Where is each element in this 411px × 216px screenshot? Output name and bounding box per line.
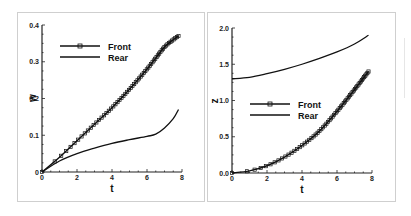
x-tick: 0: [40, 174, 44, 181]
right-legend: Front Rear: [250, 100, 321, 121]
x-tick: 4: [110, 174, 114, 181]
left-legend: Front Rear: [60, 42, 131, 63]
y-tick: 0: [35, 169, 39, 176]
y-tick: 1.5: [219, 61, 229, 68]
charts-canvas: 0 0.1 0.2 0.3 0.4 0 2 4 6 8 t w Front Re…: [0, 0, 411, 216]
legend-rear-label: Rear: [298, 111, 319, 121]
left-y-axis-label: w: [27, 94, 38, 103]
right-x-axis-label: t: [300, 184, 304, 195]
y-tick: 0.3: [29, 58, 39, 65]
x-tick: 0: [230, 175, 234, 182]
y-tick: 0.1: [29, 132, 39, 139]
series-front-line: [232, 72, 369, 174]
right-y-axis-label: z: [209, 99, 220, 104]
y-tick: 0.4: [29, 22, 39, 29]
x-tick: 6: [145, 174, 149, 181]
series-rear-line: [232, 35, 369, 79]
legend-front-label: Front: [108, 42, 131, 52]
x-tick: 2: [265, 175, 269, 182]
right-x-tick-labels: 0 2 4 6 8: [230, 175, 374, 182]
series-rear-line: [42, 110, 179, 172]
x-tick: 8: [180, 174, 184, 181]
left-x-tick-labels: 0 2 4 6 8: [40, 174, 184, 181]
right-chart: 0.0 0.5 1.0 1.5 2.0 0 2 4 6 8 t z Front …: [209, 25, 374, 196]
y-tick: 1.0: [219, 97, 229, 104]
x-tick: 4: [300, 175, 304, 182]
y-tick: 0.0: [219, 170, 229, 177]
left-chart: 0 0.1 0.2 0.3 0.4 0 2 4 6 8 t w Front Re…: [27, 22, 184, 195]
left-x-axis-label: t: [110, 183, 114, 194]
legend-rear-label: Rear: [108, 53, 129, 63]
x-tick: 2: [75, 174, 79, 181]
right-y-tick-labels: 0.0 0.5 1.0 1.5 2.0: [219, 25, 229, 177]
legend-front-label: Front: [298, 100, 321, 110]
x-tick: 6: [335, 175, 339, 182]
y-tick: 0.5: [219, 133, 229, 140]
y-tick: 2.0: [219, 25, 229, 32]
x-tick: 8: [370, 175, 374, 182]
